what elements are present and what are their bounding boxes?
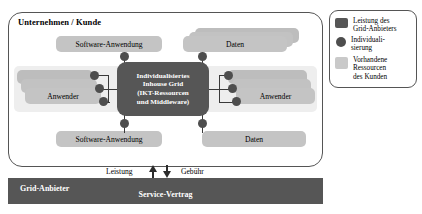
- legend-individualization-line-1: Individuali-: [351, 36, 385, 44]
- legend-item-service-label: Leistung des Grid-Anbieters: [353, 17, 397, 34]
- resource-software-bottom: Software-Anwendung: [56, 131, 162, 147]
- individualization-dot-user-right-1: [224, 71, 233, 80]
- individualization-dot-user-right-2: [228, 84, 237, 93]
- service-contract-label: Service-Vertrag: [8, 190, 323, 199]
- individualization-dot-user-left-2: [95, 84, 104, 93]
- inhouse-grid-core: Individualisiertes Inhouse Grid (IKT-Res…: [117, 62, 209, 116]
- individualization-dot-software-top: [120, 52, 129, 61]
- resource-data-bottom: Daten: [202, 131, 306, 147]
- resource-users-left: Anwender: [25, 88, 101, 104]
- legend-item-existing-resources-label: Vorhandene Ressourcen des Kunden: [353, 56, 387, 81]
- core-line-4: und Middleware): [137, 98, 190, 107]
- legend-dot-icon: [336, 37, 346, 47]
- resource-software-top: Software-Anwendung: [56, 36, 162, 52]
- individualization-dot-data-top: [198, 52, 207, 61]
- core-line-2: Inhouse Grid: [143, 80, 183, 89]
- legend-service-line-2: Grid-Anbieters: [353, 25, 397, 33]
- legend-item-individualization: Individuali- sierung: [335, 36, 385, 53]
- individualization-dot-user-left-1: [90, 71, 99, 80]
- arrow-up-icon: [149, 165, 157, 172]
- individualization-dot-user-left-3: [99, 97, 108, 106]
- exchange-service-label: Leistung: [106, 167, 133, 176]
- core-line-1: Individualisiertes: [137, 72, 190, 81]
- resource-software-bottom-label: Software-Anwendung: [75, 135, 142, 144]
- legend-dark-rect-icon: [335, 18, 348, 28]
- legend-item-existing-resources: Vorhandene Ressourcen des Kunden: [335, 56, 387, 81]
- resource-software-top-label: Software-Anwendung: [75, 40, 142, 49]
- individualization-dot-software-bottom: [120, 119, 129, 128]
- grid-provider-bar: Grid-Anbieter Service-Vertrag: [8, 178, 323, 204]
- resource-data-bottom-label: Daten: [245, 135, 263, 144]
- customer-title: Unternehmen / Kunde: [18, 17, 101, 27]
- resource-data-top-label: Daten: [226, 40, 244, 49]
- legend-service-line-1: Leistung des: [353, 17, 397, 25]
- legend-resources-line-1: Vorhandene: [353, 56, 387, 64]
- exchange-fee-label: Gebühr: [181, 167, 204, 176]
- legend-item-service: Leistung des Grid-Anbieters: [335, 17, 397, 34]
- resource-users-right: Anwender: [236, 88, 315, 104]
- legend-item-individualization-label: Individuali- sierung: [351, 36, 385, 53]
- core-line-3: (IKT-Ressourcen: [137, 89, 189, 98]
- legend-box: Leistung des Grid-Anbieters Individuali-…: [329, 10, 417, 88]
- resource-data-top: Daten: [183, 36, 287, 52]
- legend-light-rect-icon: [335, 57, 348, 69]
- legend-resources-line-3: des Kunden: [353, 73, 387, 81]
- diagram-canvas: Unternehmen / Kunde Software-Anwendung D…: [0, 0, 422, 214]
- resource-users-left-label: Anwender: [47, 92, 79, 101]
- arrow-down-icon: [163, 171, 171, 178]
- individualization-dot-data-bottom: [198, 119, 207, 128]
- resource-users-right-label: Anwender: [260, 92, 292, 101]
- legend-resources-line-2: Ressourcen: [353, 64, 387, 72]
- legend-individualization-line-2: sierung: [351, 44, 385, 52]
- individualization-dot-user-right-3: [232, 97, 241, 106]
